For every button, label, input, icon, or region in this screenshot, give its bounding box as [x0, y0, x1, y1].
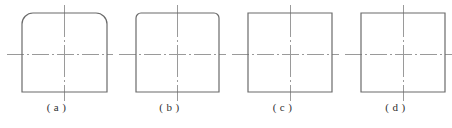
figure-b-caption: ( b ): [113, 100, 226, 114]
figure-a-caption: ( a ): [0, 100, 113, 114]
figure-c: ( c ): [226, 0, 339, 128]
figure-d-caption: ( d ): [339, 100, 452, 114]
figure-b-drawing: [113, 0, 226, 104]
figure-d: ( d ): [339, 0, 452, 128]
figure-plate: ( a )( b )( c )( d ): [0, 0, 452, 128]
figure-c-caption: ( c ): [226, 100, 339, 114]
figure-a-drawing: [0, 0, 113, 104]
figure-a: ( a ): [0, 0, 113, 128]
figure-c-drawing: [226, 0, 339, 104]
figure-d-drawing: [339, 0, 452, 104]
figure-b: ( b ): [113, 0, 226, 128]
